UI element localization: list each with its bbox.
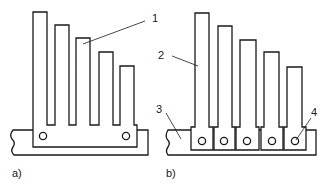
- callout-3: 3: [156, 103, 162, 115]
- hole-icon: [220, 137, 227, 144]
- callout-1: 1: [152, 12, 158, 24]
- panel-a: [11, 12, 148, 155]
- fin-segment: [261, 52, 283, 150]
- callout-4: 4: [311, 106, 317, 118]
- fin-segment: [236, 40, 259, 150]
- hole-icon: [268, 137, 275, 144]
- leader-line-1: [83, 21, 145, 44]
- panel-b: [166, 13, 316, 155]
- caption-a: a): [12, 167, 22, 179]
- fin-segment: [214, 26, 235, 150]
- hole-icon: [198, 137, 205, 144]
- hole-icon: [39, 132, 46, 139]
- callout-2: 2: [158, 49, 164, 61]
- fin-segment: [191, 13, 213, 150]
- hole-icon: [243, 137, 250, 144]
- heatsink-diagram: 1 2 3 4 a) b): [0, 0, 330, 189]
- comb-body-a: [33, 12, 137, 147]
- hole-icon: [122, 132, 129, 139]
- leader-line-2: [172, 56, 198, 66]
- caption-b: b): [166, 167, 176, 179]
